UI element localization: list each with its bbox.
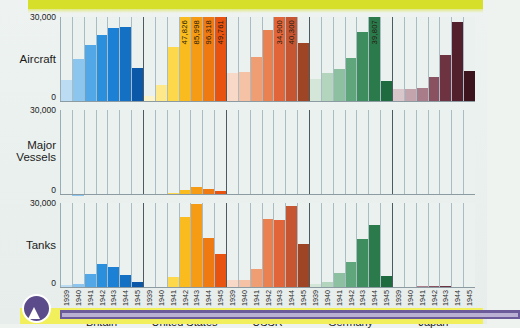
gridline: [96, 17, 97, 102]
bar: [96, 35, 108, 102]
gridline: [463, 203, 464, 288]
gridline: [96, 203, 97, 288]
gridline: [250, 17, 251, 102]
gridline: [179, 203, 180, 288]
y-tick-zero: 0: [51, 185, 56, 195]
y-axis-line: [60, 17, 61, 102]
gridline: [297, 17, 298, 102]
bar: [416, 88, 428, 102]
x-axis-baseline: [60, 101, 475, 102]
gridline: [416, 17, 417, 102]
x-tick-year: 1942: [430, 290, 439, 306]
x-tick-year: 1941: [86, 290, 95, 306]
x-tick-year: 1939: [62, 290, 71, 306]
x-tick-year: 1940: [323, 290, 332, 306]
x-tick-year: 1940: [240, 290, 249, 306]
x-tick-year: 1942: [347, 290, 356, 306]
x-axis-baseline: [60, 287, 475, 288]
gridline: [439, 110, 440, 195]
bar: [333, 273, 345, 288]
gridline: [119, 110, 120, 195]
gridline: [380, 110, 381, 195]
gridline: [333, 203, 334, 288]
bar: [250, 57, 262, 102]
gridline: [250, 110, 251, 195]
gridline: [404, 110, 405, 195]
gridline: [190, 110, 191, 195]
bar: [250, 269, 262, 288]
gridline: [131, 203, 132, 288]
gridline: [107, 203, 108, 288]
country-separator: [226, 17, 227, 102]
bar: [262, 30, 274, 102]
y-tick-zero: 0: [51, 92, 56, 102]
gridline: [179, 110, 180, 195]
panel-major-vessels: [60, 110, 475, 195]
bar: [380, 81, 392, 102]
bar: [321, 73, 333, 102]
x-tick-year: 1944: [453, 290, 462, 306]
x-tick-year: 1939: [311, 290, 320, 306]
gridline: [428, 203, 429, 288]
gridline: [214, 17, 215, 102]
gridline: [380, 17, 381, 102]
gridline: [345, 203, 346, 288]
panel-aircraft: 47,82685,99896,31849,76134,90040,30039,8…: [60, 17, 475, 102]
gridline: [321, 17, 322, 102]
bar: [119, 27, 131, 102]
gridline: [321, 110, 322, 195]
x-axis-baseline: [60, 194, 475, 195]
bar: [345, 262, 357, 288]
gridline: [238, 17, 239, 102]
gridline: [428, 17, 429, 102]
bar: [273, 220, 285, 288]
gridline: [250, 203, 251, 288]
bar: [226, 73, 238, 102]
panel-row-label: Tanks: [26, 239, 56, 251]
wwii-production-chart: 47,82685,99896,31849,76134,90040,30039,8…: [0, 13, 487, 301]
x-tick-year: 1940: [157, 290, 166, 306]
country-separator: [226, 110, 227, 195]
gridline: [463, 17, 464, 102]
bar: [202, 238, 214, 288]
panel-row-label: MajorVessels: [16, 139, 56, 163]
bar: [167, 47, 179, 102]
gridline: [451, 110, 452, 195]
country-separator: [143, 203, 144, 288]
chevron-up-icon: [28, 307, 40, 319]
bar: [107, 28, 119, 102]
country-separator: [392, 110, 393, 195]
gridline: [333, 17, 334, 102]
x-tick-year: 1945: [465, 290, 474, 306]
country-separator: [309, 203, 310, 288]
bar-value-label: 40,300: [287, 20, 296, 44]
x-tick-year: 1944: [370, 290, 379, 306]
gridline: [84, 203, 85, 288]
bar: [404, 89, 416, 103]
y-axis-line: [60, 110, 61, 195]
gridline: [119, 203, 120, 288]
country-separator: [309, 110, 310, 195]
x-tick-year: 1943: [441, 290, 450, 306]
gridline: [96, 110, 97, 195]
gridline: [404, 203, 405, 288]
gridline: [451, 203, 452, 288]
gridline: [262, 203, 263, 288]
gridline: [345, 17, 346, 102]
gridline: [321, 203, 322, 288]
gridline: [262, 17, 263, 102]
bar: [84, 274, 96, 288]
gridline: [297, 110, 298, 195]
gridline: [368, 110, 369, 195]
panel-tanks: [60, 203, 475, 288]
gridline: [451, 17, 452, 102]
gridline: [155, 203, 156, 288]
gridline: [238, 110, 239, 195]
gridline: [238, 203, 239, 288]
x-tick-year: 1943: [358, 290, 367, 306]
gridline: [345, 110, 346, 195]
x-tick-year: 1945: [216, 290, 225, 306]
gridline: [285, 110, 286, 195]
country-separator: [392, 203, 393, 288]
